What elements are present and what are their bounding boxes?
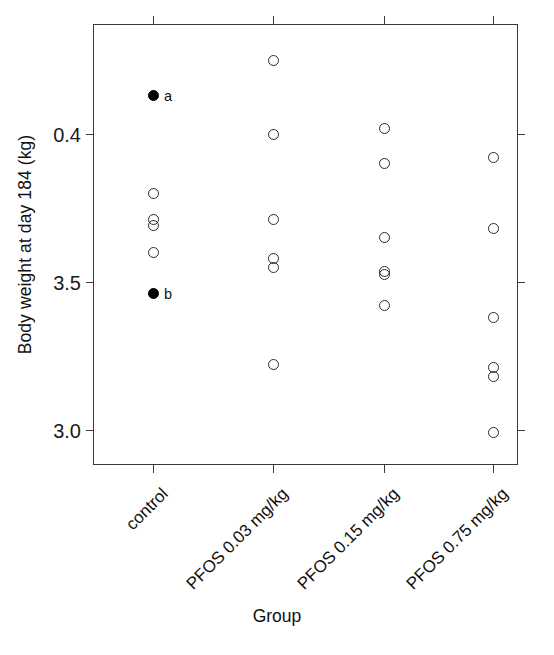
data-point	[268, 262, 279, 273]
data-point-annotation: a	[164, 88, 172, 103]
x-axis-tick	[493, 465, 494, 473]
data-point	[488, 223, 499, 234]
y-axis-tick-mirror	[518, 430, 525, 431]
data-point	[268, 129, 279, 140]
x-axis-tick-mirror	[384, 16, 385, 24]
data-point	[488, 371, 499, 382]
x-axis-title: Group	[0, 606, 554, 627]
y-axis-tick-mirror	[518, 282, 525, 283]
y-axis-tick: 0.4	[86, 134, 93, 135]
data-point-annotation: b	[164, 287, 172, 302]
scatter-plot-figure: Body weight at day 184 (kg) 0.43.53.0ab …	[0, 0, 554, 655]
y-axis-tick: 3.5	[86, 282, 93, 283]
data-point	[148, 247, 159, 258]
data-point	[148, 188, 159, 199]
data-point	[379, 300, 390, 311]
x-axis-tick-label-text: PFOS 0.75 mg/kg	[403, 485, 511, 593]
x-axis-tick	[273, 465, 274, 473]
y-axis-title: Body weight at day 184 (kg)	[10, 24, 40, 465]
y-axis-tick-label: 3.0	[53, 421, 81, 441]
data-point	[379, 269, 390, 280]
data-point	[379, 232, 390, 243]
data-point	[488, 312, 499, 323]
x-axis-tick-mirror	[493, 16, 494, 24]
data-point	[488, 152, 499, 163]
data-point	[379, 158, 390, 169]
x-axis-tick-label-text: PFOS 0.03 mg/kg	[183, 485, 291, 593]
data-point	[268, 359, 279, 370]
y-axis-tick-label: 3.5	[53, 273, 81, 293]
data-point	[488, 427, 499, 438]
x-axis-tick	[384, 465, 385, 473]
data-point	[148, 288, 159, 299]
data-point	[148, 90, 159, 101]
x-axis-tick-mirror	[153, 16, 154, 24]
data-point	[379, 123, 390, 134]
data-point	[268, 214, 279, 225]
data-point	[268, 55, 279, 66]
y-axis-tick-label: 0.4	[53, 125, 81, 145]
y-axis-tick: 3.0	[86, 430, 93, 431]
x-axis-tick-label-text: PFOS 0.15 mg/kg	[294, 485, 402, 593]
x-axis-tick-mirror	[273, 16, 274, 24]
plot-area: 0.43.53.0ab	[93, 24, 518, 465]
x-axis-tick-label-text: control	[123, 485, 171, 533]
y-axis-tick-mirror	[518, 134, 525, 135]
data-point	[148, 220, 159, 231]
x-axis-tick	[153, 465, 154, 473]
